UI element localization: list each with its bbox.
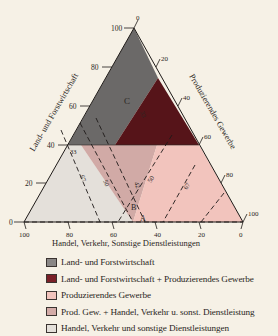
left-tick-60: 60 — [69, 102, 77, 111]
legend-swatch-prod-handel — [46, 307, 57, 316]
left-tick-40: 40 — [47, 141, 55, 150]
bottom-tick-0: 0 — [239, 231, 243, 239]
right-tick-80: 80 — [226, 171, 234, 179]
left-tick-80: 80 — [91, 63, 99, 72]
right-tick-0: 0 — [136, 14, 140, 22]
bottom-axis-ticks — [24, 222, 243, 229]
line-label-33-left: 33 — [70, 148, 77, 155]
legend-swatch-land-forst-prod — [46, 274, 57, 283]
legend-swatch-land-forst — [46, 258, 57, 267]
right-tick-40: 40 — [183, 94, 191, 102]
legend-item: Land- und Forstwirtschaft — [46, 255, 278, 269]
region-label-b: B — [131, 203, 136, 212]
legend-swatch-prod — [46, 291, 57, 300]
left-tick-100: 100 — [111, 24, 123, 33]
region-label-a: A — [140, 214, 146, 223]
ternary-diagram: 100 80 60 40 20 0 0 20 40 60 80 100 100 … — [0, 0, 278, 250]
bottom-tick-100: 100 — [19, 231, 30, 239]
legend-label: Land- und Forstwirtschaft + Produzierend… — [61, 274, 254, 284]
bottom-axis-label: Handel, Verkehr, Sonstige Dienstleistung… — [52, 238, 201, 248]
legend-label: Land- und Forstwirtschaft — [61, 257, 154, 267]
legend-label: Handel, Verkehr und sonstige Dienstleist… — [61, 323, 229, 333]
legend-item: Land- und Forstwirtschaft + Produzierend… — [46, 272, 278, 286]
right-tick-20: 20 — [161, 55, 169, 63]
legend-item: Produzierendes Gewerbe — [46, 288, 278, 302]
right-tick-100: 100 — [248, 210, 259, 218]
right-tick-60: 60 — [204, 133, 212, 141]
legend-label: Prod. Gew. + Handel, Verkehr u. sonst. D… — [61, 307, 255, 317]
legend-swatch-handel — [46, 324, 57, 333]
left-tick-0: 0 — [9, 218, 13, 227]
legend-label: Produzierendes Gewerbe — [61, 290, 151, 300]
legend-item: Prod. Gew. + Handel, Verkehr u. sonst. D… — [46, 305, 278, 319]
left-tick-20: 20 — [25, 179, 33, 188]
region-label-c: C — [124, 96, 130, 106]
legend: Land- und Forstwirtschaft Land- und Fors… — [46, 255, 278, 336]
legend-item: Handel, Verkehr und sonstige Dienstleist… — [46, 321, 278, 335]
